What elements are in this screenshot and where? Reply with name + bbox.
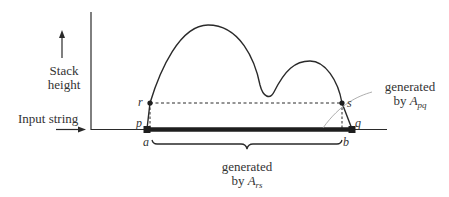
- label-q: q: [355, 116, 361, 130]
- label-generated-ars: generated by Ars: [212, 160, 282, 192]
- apq-var: A: [410, 93, 418, 108]
- right-arrow-head: [78, 127, 86, 133]
- apq-prefix: by: [393, 93, 409, 108]
- label-p: p: [136, 116, 142, 130]
- point-s: [339, 100, 344, 105]
- stack-height-curve: [147, 25, 352, 129]
- apq-sub: pq: [418, 100, 427, 110]
- y-axis-label: Stack height: [44, 64, 84, 92]
- x-axis-label: Input string: [18, 112, 78, 126]
- label-s: s: [347, 96, 352, 110]
- brace-ars: [152, 140, 342, 149]
- up-arrow-head: [59, 30, 65, 38]
- ars-line1: generated: [212, 160, 282, 174]
- label-b: b: [343, 135, 349, 149]
- label-a: a: [143, 135, 149, 149]
- ars-prefix: by: [231, 173, 247, 188]
- label-generated-apq: generated by Apq: [375, 80, 445, 112]
- label-r: r: [138, 95, 143, 109]
- y-axis-label-line1: Stack: [44, 64, 84, 78]
- point-p: [144, 126, 151, 133]
- ars-var: A: [248, 173, 256, 188]
- ars-sub: rs: [256, 180, 263, 190]
- apq-line1: generated: [375, 80, 445, 94]
- point-r: [147, 100, 152, 105]
- y-axis-label-line2: height: [44, 78, 84, 92]
